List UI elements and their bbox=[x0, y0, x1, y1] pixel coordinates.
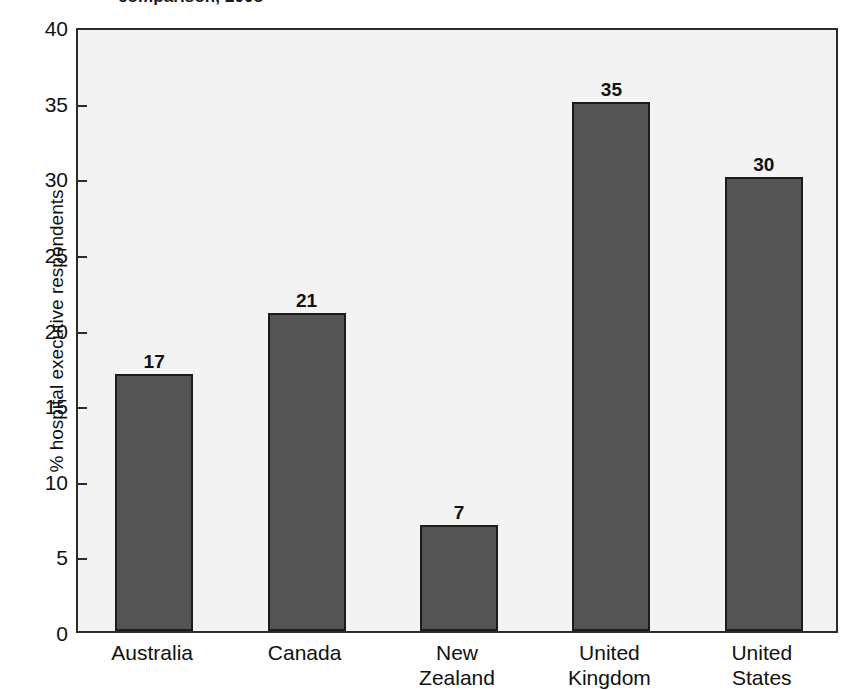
x-category-label: UnitedKingdom bbox=[568, 640, 651, 690]
plot-inner: 172173530 bbox=[78, 30, 836, 631]
y-tick-mark bbox=[78, 558, 87, 560]
y-tick-label: 35 bbox=[4, 93, 68, 114]
y-tick-label: 10 bbox=[4, 471, 68, 492]
x-category-label: Australia bbox=[111, 640, 193, 665]
bar-value-label: 17 bbox=[144, 352, 165, 371]
y-tick-mark bbox=[78, 407, 87, 409]
bar-value-label: 21 bbox=[296, 291, 317, 310]
bar bbox=[725, 177, 803, 631]
x-category-label-line: States bbox=[731, 665, 792, 690]
y-tick-label: 40 bbox=[4, 18, 68, 39]
y-axis-tick-labels: 0510152025303540 bbox=[0, 28, 68, 633]
x-category-label-line: Canada bbox=[268, 640, 342, 665]
x-category-label-line: Zealand bbox=[419, 665, 495, 690]
x-category-label: NewZealand bbox=[419, 640, 495, 690]
x-axis-category-labels: AustraliaCanadaNewZealandUnitedKingdomUn… bbox=[76, 640, 838, 690]
bar bbox=[268, 313, 346, 631]
y-tick-mark bbox=[78, 256, 87, 258]
y-tick-mark bbox=[78, 105, 87, 107]
y-tick-label: 20 bbox=[4, 320, 68, 341]
x-category-label-line: United bbox=[568, 640, 651, 665]
x-category-label-line: New bbox=[419, 640, 495, 665]
bar-value-label: 35 bbox=[601, 80, 622, 99]
bar bbox=[420, 525, 498, 631]
chart-page: comparison, 2008 % hospital executive re… bbox=[0, 0, 858, 690]
bar-value-label: 7 bbox=[454, 503, 465, 522]
y-tick-mark bbox=[78, 180, 87, 182]
y-tick-mark bbox=[78, 332, 87, 334]
y-tick-label: 30 bbox=[4, 169, 68, 190]
x-category-label-line: Kingdom bbox=[568, 665, 651, 690]
plot-area: 172173530 bbox=[76, 28, 838, 633]
x-category-label: UnitedStates bbox=[731, 640, 792, 690]
bar bbox=[115, 374, 193, 631]
bar-value-label: 30 bbox=[753, 155, 774, 174]
chart-title: comparison, 2008 bbox=[118, 0, 678, 9]
y-tick-mark bbox=[78, 483, 87, 485]
x-category-label: Canada bbox=[268, 640, 342, 665]
x-category-label-line: United bbox=[731, 640, 792, 665]
x-category-label-line: Australia bbox=[111, 640, 193, 665]
y-tick-label: 15 bbox=[4, 396, 68, 417]
y-tick-label: 0 bbox=[4, 623, 68, 644]
y-tick-label: 5 bbox=[4, 547, 68, 568]
y-tick-label: 25 bbox=[4, 244, 68, 265]
bar bbox=[572, 102, 650, 631]
